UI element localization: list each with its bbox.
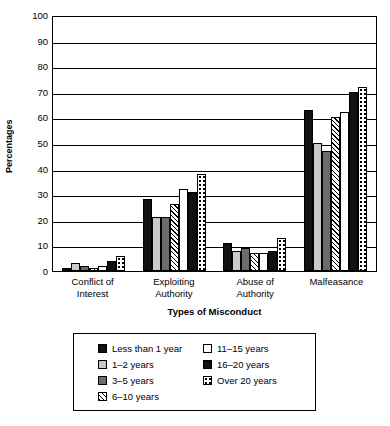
bar — [259, 253, 268, 271]
legend-swatch-icon — [203, 344, 212, 353]
y-axis-tick-label: 70 — [22, 88, 48, 98]
bar — [98, 266, 107, 271]
bar — [241, 248, 250, 271]
legend-item[interactable]: Over 20 years — [203, 373, 308, 388]
legend-item-label: Over 20 years — [217, 376, 277, 386]
legend: Less than 1 year1–2 years3–5 years6–10 y… — [73, 333, 316, 411]
bar — [197, 174, 206, 271]
legend-item-label: 3–5 years — [112, 376, 154, 386]
bar — [62, 268, 71, 271]
x-axis-category-label: Conflict ofInterest — [56, 276, 130, 306]
bar — [232, 251, 241, 271]
x-axis-category-label-line: Exploiting — [137, 276, 211, 288]
y-axis-tick-label: 40 — [22, 165, 48, 175]
bar — [322, 151, 331, 271]
bar-group — [62, 17, 125, 271]
x-axis-category-label-line — [299, 288, 373, 300]
bar — [179, 189, 188, 271]
x-axis-category-label: Abuse ofAuthority — [218, 276, 292, 306]
bar — [80, 266, 89, 271]
legend-item[interactable]: 6–10 years — [98, 389, 203, 404]
y-axis-tick-label: 90 — [22, 37, 48, 47]
bar-groups — [53, 17, 376, 271]
legend-column: Less than 1 year1–2 years3–5 years6–10 y… — [98, 341, 203, 405]
bar — [304, 110, 313, 271]
bar — [152, 217, 161, 271]
legend-item[interactable]: 1–2 years — [98, 357, 203, 372]
bar — [89, 268, 98, 271]
y-axis-tick-label: 60 — [22, 113, 48, 123]
legend-column: 11–15 years16–20 yearsOver 20 years — [203, 341, 308, 405]
legend-item[interactable]: 16–20 years — [203, 357, 308, 372]
legend-swatch-icon — [98, 344, 107, 353]
x-axis-category-label-line: Malfeasance — [299, 276, 373, 288]
bar — [349, 92, 358, 271]
legend-item[interactable]: 3–5 years — [98, 373, 203, 388]
x-axis-category-label-line: Authority — [137, 288, 211, 300]
x-axis-category-labels: Conflict ofInterestExploitingAuthorityAb… — [52, 276, 377, 306]
legend-swatch-icon — [98, 392, 107, 401]
y-axis-tick-label: 30 — [22, 190, 48, 200]
bar — [313, 143, 322, 271]
y-axis-tick-label: 50 — [22, 139, 48, 149]
bar — [250, 253, 259, 271]
plot-area — [52, 16, 377, 272]
legend-item-label: Less than 1 year — [112, 344, 182, 354]
bar-group — [143, 17, 206, 271]
bar-group — [223, 17, 286, 271]
x-axis-category-label: Malfeasance — [299, 276, 373, 306]
legend-swatch-icon — [98, 360, 107, 369]
legend-item-label: 11–15 years — [217, 344, 269, 354]
y-axis-tick-label: 0 — [22, 267, 48, 277]
legend-item[interactable]: 11–15 years — [203, 341, 308, 356]
bar — [331, 117, 340, 271]
bar — [71, 263, 80, 271]
x-axis-category-label-line: Authority — [218, 288, 292, 300]
bar-group — [304, 17, 367, 271]
x-axis-category-label-line: Abuse of — [218, 276, 292, 288]
bar — [107, 261, 116, 271]
legend-swatch-icon — [203, 376, 212, 385]
legend-item-label: 16–20 years — [217, 360, 269, 370]
bar-chart: Percentages 1009080706050403020100 Confl… — [0, 0, 390, 426]
legend-swatch-icon — [203, 360, 212, 369]
x-axis-category-label-line: Interest — [56, 288, 130, 300]
bar — [223, 243, 232, 271]
legend-item-label: 6–10 years — [112, 392, 159, 402]
x-axis-category-label: ExploitingAuthority — [137, 276, 211, 306]
legend-item[interactable]: Less than 1 year — [98, 341, 203, 356]
bar — [116, 256, 125, 271]
bar — [340, 112, 349, 271]
bar — [358, 87, 367, 271]
bar — [170, 204, 179, 271]
y-axis-title: Percentages — [2, 96, 16, 196]
y-axis-tick-label: 100 — [22, 11, 48, 21]
bar — [161, 217, 170, 271]
bar — [143, 199, 152, 271]
bar — [188, 192, 197, 271]
x-axis-title: Types of Misconduct — [52, 306, 377, 317]
y-axis-tick-label: 20 — [22, 216, 48, 226]
bar — [268, 251, 277, 271]
y-axis-tick-label: 80 — [22, 62, 48, 72]
y-axis-tick-label: 10 — [22, 241, 48, 251]
legend-swatch-icon — [98, 376, 107, 385]
x-axis-category-label-line: Conflict of — [56, 276, 130, 288]
legend-item-label: 1–2 years — [112, 360, 154, 370]
bar — [277, 238, 286, 271]
y-axis-ticks: 1009080706050403020100 — [18, 0, 48, 426]
